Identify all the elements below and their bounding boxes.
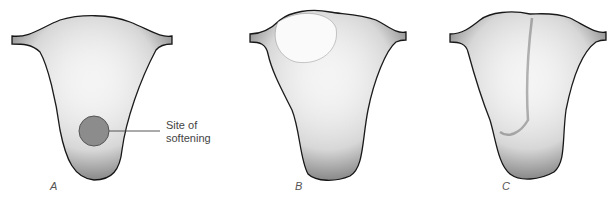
annotation-line-1: Site of <box>166 119 211 132</box>
annotation-line-2: softening <box>166 132 211 145</box>
panel-label-c: C <box>502 180 510 192</box>
illustration-canvas <box>0 0 611 198</box>
softening-site-marker <box>79 116 109 146</box>
site-of-softening-annotation: Site of softening <box>166 119 211 145</box>
uterus-figure-c <box>450 12 606 179</box>
panel-label-b: B <box>295 180 302 192</box>
panel-label-a: A <box>50 180 57 192</box>
uterus-figure-a <box>12 16 172 180</box>
uterus-figure-b <box>250 10 406 180</box>
